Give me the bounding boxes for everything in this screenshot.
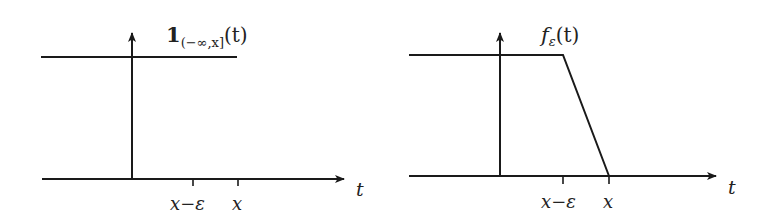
left-axis-label: t: [356, 178, 364, 200]
right-tick-label-x-minus-eps: x−ε: [541, 191, 576, 212]
right-axis-label: t: [728, 176, 736, 198]
right-ramp-function: [409, 55, 609, 176]
left-title: 1(−∞,x](t): [166, 22, 248, 50]
diagram-canvas: 1(−∞,x](t) t x−ε x fε(t) t x−ε x: [0, 0, 767, 224]
right-tick-label-x: x: [603, 191, 613, 212]
left-panel: 1(−∞,x](t) t x−ε x: [41, 22, 364, 214]
right-panel: fε(t) t x−ε x: [409, 23, 736, 212]
right-title: fε(t): [539, 23, 579, 49]
left-tick-label-x: x: [232, 193, 242, 214]
left-tick-label-x-minus-eps: x−ε: [170, 193, 205, 214]
